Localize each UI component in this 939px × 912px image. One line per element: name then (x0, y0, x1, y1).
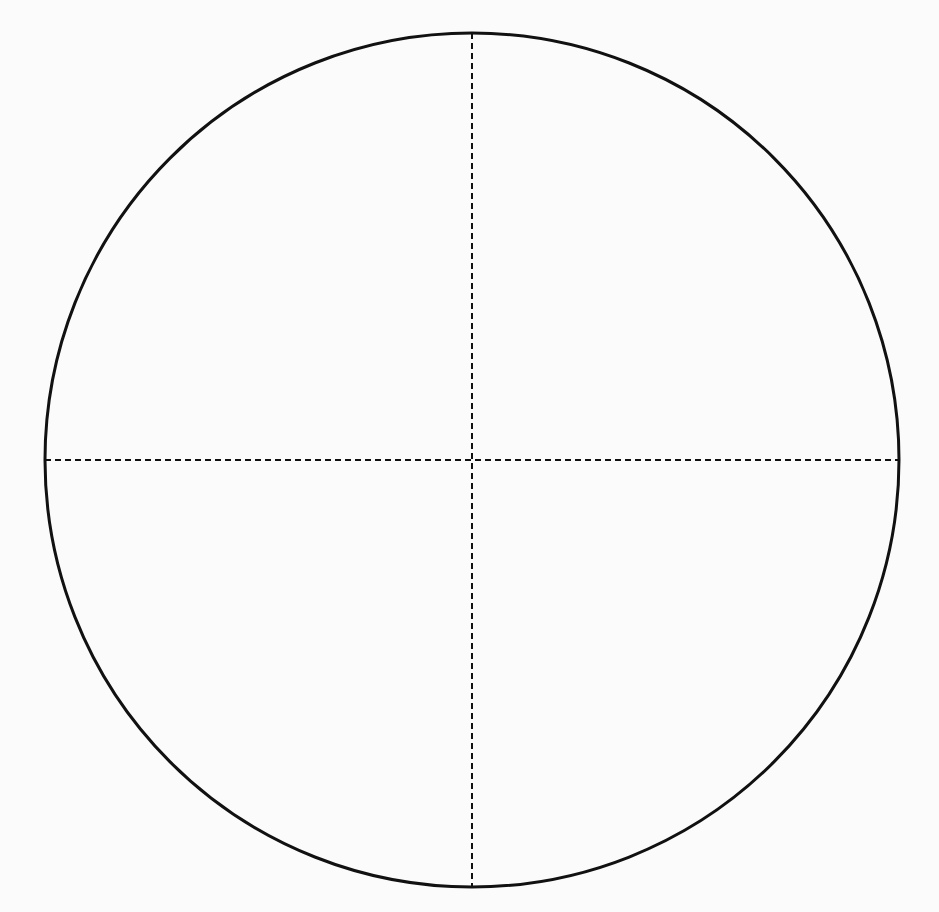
background (0, 0, 939, 912)
diagram-canvas (0, 0, 939, 912)
